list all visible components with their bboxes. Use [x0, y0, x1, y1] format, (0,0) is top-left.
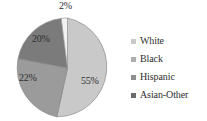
pie-svg [0, 0, 133, 121]
legend-item-black: Black [131, 50, 163, 67]
legend-item-asian-other: Asian-Other [131, 86, 188, 103]
legend-label: Black [140, 54, 163, 64]
legend-swatch-icon [131, 93, 136, 98]
legend-label: White [140, 36, 164, 46]
legend-label: Hispanic [140, 72, 175, 82]
pie-label-white: 55% [81, 76, 99, 86]
legend-swatch-icon [131, 57, 136, 62]
pie-slices [17, 18, 107, 117]
legend-item-white: White [131, 32, 164, 49]
legend-item-hispanic: Hispanic [131, 68, 175, 85]
pie-label-hispanic: 22% [19, 73, 37, 83]
pie-label-black: 2% [59, 1, 72, 11]
chart-legend: White Black Hispanic Asian-Other [131, 30, 207, 108]
legend-label: Asian-Other [140, 90, 188, 100]
pie-plot-area: 2% 20% 22% 55% [0, 0, 133, 121]
legend-swatch-icon [131, 39, 136, 44]
legend-swatch-icon [131, 75, 136, 80]
pie-label-asian-other: 20% [32, 34, 50, 44]
pie-chart-figure: 2% 20% 22% 55% White Black Hispanic Asia… [0, 0, 207, 121]
